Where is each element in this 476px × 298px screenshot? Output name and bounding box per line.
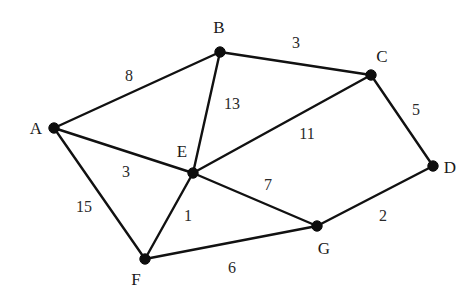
- vertices-group: [49, 47, 438, 264]
- edge-weight-a-e: 3: [122, 164, 130, 180]
- graph-vertex-a: [49, 123, 59, 133]
- edge-weight-b-e: 13: [224, 96, 240, 112]
- vertex-label-a: A: [30, 120, 42, 137]
- edge-weight-b-c: 3: [292, 35, 300, 51]
- graph-vertex-d: [428, 161, 438, 171]
- vertex-label-f: F: [131, 271, 140, 288]
- graph-edge-c-e: [193, 75, 371, 173]
- graph-vertex-c: [366, 70, 376, 80]
- vertex-label-c: C: [376, 48, 387, 65]
- graph-edge-d-g: [317, 166, 433, 226]
- graph-edge-e-g: [193, 173, 317, 226]
- graph-vertex-g: [312, 221, 322, 231]
- graph-edge-b-e: [193, 52, 220, 173]
- graph-vertex-e: [188, 168, 198, 178]
- graph-diagram: 83135113151762ABCDEFG: [0, 0, 476, 298]
- vertex-label-b: B: [213, 19, 224, 36]
- edge-weight-a-b: 8: [125, 68, 133, 84]
- edge-weight-c-d: 5: [412, 102, 420, 118]
- edge-weight-d-g: 2: [379, 208, 387, 224]
- graph-vertex-f: [140, 254, 150, 264]
- edge-weight-a-f: 15: [76, 199, 92, 215]
- vertex-label-d: D: [444, 159, 456, 176]
- edge-weight-e-f: 1: [184, 208, 192, 224]
- graph-edge-a-b: [54, 52, 220, 128]
- graph-edge-c-d: [371, 75, 433, 166]
- edge-weight-e-g: 7: [264, 177, 272, 193]
- edge-weight-c-e: 11: [299, 126, 314, 142]
- graph-edge-a-f: [54, 128, 145, 259]
- graph-vertex-b: [215, 47, 225, 57]
- graph-edge-b-c: [220, 52, 371, 75]
- edge-weight-f-g: 6: [228, 260, 236, 276]
- graph-edge-f-g: [145, 226, 317, 259]
- graph-canvas: [0, 0, 476, 298]
- vertex-label-e: E: [177, 143, 187, 160]
- edges-group: [54, 52, 433, 259]
- vertex-label-g: G: [318, 240, 330, 257]
